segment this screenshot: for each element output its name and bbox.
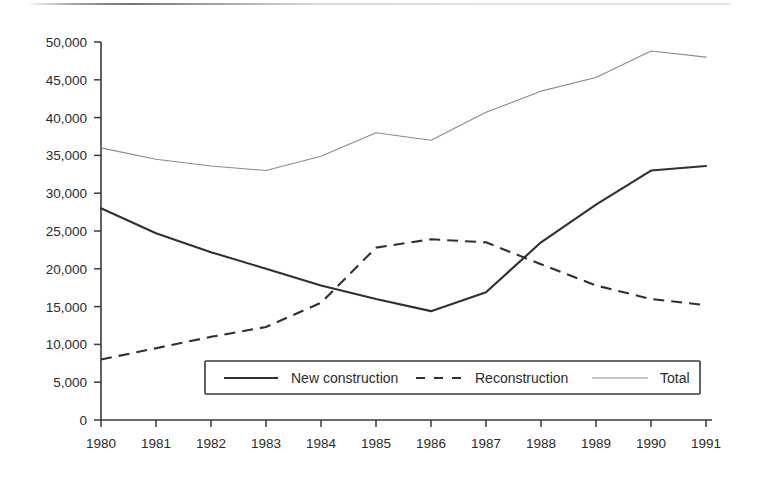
y-tick-label: 30,000 bbox=[46, 186, 87, 201]
y-tick-label: 0 bbox=[79, 413, 87, 428]
x-tick-label: 1981 bbox=[141, 436, 171, 451]
x-tick-label: 1991 bbox=[691, 436, 721, 451]
y-tick-label: 20,000 bbox=[46, 262, 87, 277]
chart-legend: New construction Reconstruction Total bbox=[205, 361, 700, 394]
x-tick-label: 1983 bbox=[251, 436, 281, 451]
x-tick-label: 1984 bbox=[306, 436, 337, 451]
series-line-new-construction bbox=[101, 166, 706, 311]
x-tick-label: 1990 bbox=[636, 436, 666, 451]
legend-label-reconstruction: Reconstruction bbox=[475, 370, 568, 386]
series-line-total bbox=[101, 51, 706, 170]
y-axis-ticks: 05,00010,00015,00020,00025,00030,00035,0… bbox=[46, 35, 101, 428]
y-tick-label: 50,000 bbox=[46, 35, 87, 50]
y-tick-label: 25,000 bbox=[46, 224, 87, 239]
x-tick-label: 1986 bbox=[416, 436, 446, 451]
series-line-reconstruction bbox=[101, 239, 706, 359]
y-tick-label: 10,000 bbox=[46, 337, 87, 352]
y-tick-label: 40,000 bbox=[46, 111, 87, 126]
x-tick-label: 1982 bbox=[196, 436, 226, 451]
legend-label-total: Total bbox=[660, 370, 690, 386]
y-tick-label: 35,000 bbox=[46, 148, 87, 163]
x-tick-label: 1980 bbox=[86, 436, 116, 451]
x-tick-label: 1989 bbox=[581, 436, 611, 451]
legend-label-new-construction: New construction bbox=[291, 370, 398, 386]
chart-page: 05,00010,00015,00020,00025,00030,00035,0… bbox=[0, 0, 758, 478]
x-tick-label: 1985 bbox=[361, 436, 391, 451]
y-tick-label: 45,000 bbox=[46, 73, 87, 88]
data-series-group bbox=[101, 51, 706, 359]
y-tick-label: 15,000 bbox=[46, 300, 87, 315]
x-tick-label: 1987 bbox=[471, 436, 501, 451]
x-tick-label: 1988 bbox=[526, 436, 556, 451]
x-axis-ticks: 1980198119821983198419851986198719881989… bbox=[86, 420, 721, 451]
line-chart: 05,00010,00015,00020,00025,00030,00035,0… bbox=[0, 0, 758, 478]
y-tick-label: 5,000 bbox=[53, 375, 87, 390]
